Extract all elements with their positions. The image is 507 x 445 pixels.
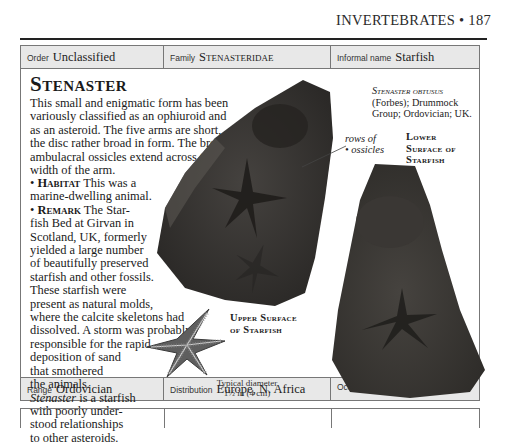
bullet: • [30, 176, 34, 190]
upper-surface-fossil-image [155, 78, 340, 310]
lower-label-line: Starfish [406, 154, 456, 166]
upper-label-line: of Starfish [230, 324, 297, 336]
bullet: • [30, 203, 34, 217]
diameter-value: 1½ in (4 cm) [207, 388, 287, 398]
leader-bullet: • [345, 144, 349, 155]
lower-surface-label: Lower Surface of Starfish [406, 131, 456, 166]
habitat-text: This was a [83, 176, 136, 190]
ossicles-label-line: rows of [345, 133, 384, 144]
family-value: Stenasteridae [199, 50, 273, 65]
order-label: Order [27, 53, 49, 63]
informal-name-cell: Informal name Starfish [331, 46, 479, 68]
ossicles-label: rows of • ossicles [345, 133, 384, 155]
section-title: INVERTEBRATES [336, 12, 455, 28]
species-name: Stenaster obtusus [372, 85, 492, 97]
running-head: INVERTEBRATES • 187 [336, 12, 491, 29]
typical-diameter: Typical diameter 1½ in (4 cm) [207, 378, 287, 398]
lower-surface-fossil-image [330, 160, 500, 400]
ossicles-label-line: ossicles [351, 144, 384, 155]
family-cell: Family Stenasteridae [164, 46, 331, 68]
closing-text: to other asteroids. [30, 432, 210, 445]
divider [331, 409, 332, 428]
page-number: 187 [468, 12, 491, 28]
remark-text: the animals. [30, 378, 210, 391]
specimen-caption-line: Group; Ordovician; UK. [372, 108, 492, 120]
order-value: Unclassified [53, 50, 115, 65]
diameter-label: Typical diameter [207, 378, 287, 388]
separator-bullet: • [459, 12, 464, 28]
classification-bar: Order Unclassified Family Stenasteridae … [21, 46, 479, 69]
next-entry-box [20, 408, 480, 428]
informal-name-value: Starfish [395, 50, 434, 65]
closing-text: is a starfish [76, 391, 136, 405]
upper-surface-label: Upper Surface of Starfish [230, 312, 297, 335]
closing-line: Stenaster is a starfish [30, 392, 210, 405]
lower-label-line: Lower [406, 131, 456, 143]
divider [164, 409, 165, 428]
specimen-caption-line: (Forbes); Drummock [372, 97, 492, 109]
family-label: Family [170, 53, 195, 63]
remark-heading: Remark [37, 203, 80, 217]
informal-name-label: Informal name [337, 53, 391, 63]
remark-text: The Star- [84, 203, 130, 217]
starfish-illustration [140, 305, 230, 377]
upper-label-line: Upper Surface [230, 312, 297, 324]
genus-name: Stenaster [30, 391, 76, 405]
specimen-caption: Stenaster obtusus (Forbes); Drummock Gro… [372, 85, 492, 120]
lower-label-line: Surface of [406, 143, 456, 155]
entry-title: Stenaster [30, 72, 127, 97]
order-cell: Order Unclassified [21, 46, 164, 68]
habitat-heading: Habitat [37, 176, 80, 190]
header-rule [20, 38, 487, 40]
